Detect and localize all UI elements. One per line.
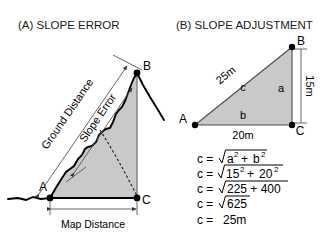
equation-1-base-1: a <box>227 152 234 166</box>
side-a-letter: a <box>278 82 285 94</box>
equation-3-lhs: c = <box>197 182 213 196</box>
panel-a-point-b-dot <box>134 70 141 77</box>
panel-b-point-c-label: C <box>296 124 305 138</box>
equation-5-body: 25m <box>223 213 246 227</box>
equation-5-lhs: c = <box>197 213 213 227</box>
equation-3-body: 225 + 400 <box>227 182 281 196</box>
equation-1-lhs: c = <box>197 152 213 166</box>
equation-2-base-2: 20 <box>259 167 273 181</box>
panel-a-point-b-label: B <box>143 59 151 73</box>
base-length-label: 20m <box>232 129 253 141</box>
panel-a-title: (A) SLOPE ERROR <box>18 19 120 31</box>
equation-1-base-2: b <box>253 152 260 166</box>
equation-1-exponent-2: 2 <box>261 150 266 159</box>
equation-row-1: c = a 2 + b 2 <box>197 150 267 166</box>
vertical-length-label: 15m <box>304 75 316 96</box>
equation-1-plus: + <box>241 152 248 166</box>
equation-2-exponent-2: 2 <box>274 165 279 174</box>
panel-b-point-b-label: B <box>297 34 305 48</box>
equation-2-base-1: 15 <box>226 167 240 181</box>
panel-a-point-a-dot <box>47 195 54 202</box>
panel-a-point-c-dot <box>134 195 141 202</box>
side-b-letter: b <box>240 109 246 121</box>
panel-b-title: (B) SLOPE ADJUSTMENT <box>176 19 313 31</box>
panel-a-point-a-label: A <box>39 180 47 194</box>
equation-2-plus: + <box>247 167 254 181</box>
panel-b-point-a-label: A <box>179 112 187 126</box>
panel-b-point-c-dot <box>289 122 295 128</box>
slope-error-and-adjustment-figure: (A) SLOPE ERROR Ground Distance <box>0 0 324 241</box>
equation-4-lhs: c = <box>197 197 213 211</box>
panel-a-point-c-label: C <box>142 193 151 207</box>
equation-row-3: c = 225 + 400 <box>197 181 288 196</box>
map-distance-label: Map Distance <box>61 218 125 230</box>
equation-1-exponent-1: 2 <box>234 150 239 159</box>
panel-b-point-b-dot <box>289 44 295 50</box>
side-c-letter: c <box>240 81 246 93</box>
equation-2-lhs: c = <box>197 167 213 181</box>
equation-4-body: 625 <box>227 197 247 211</box>
equation-2-exponent-1: 2 <box>240 165 245 174</box>
panel-b-point-a-dot <box>192 122 198 128</box>
